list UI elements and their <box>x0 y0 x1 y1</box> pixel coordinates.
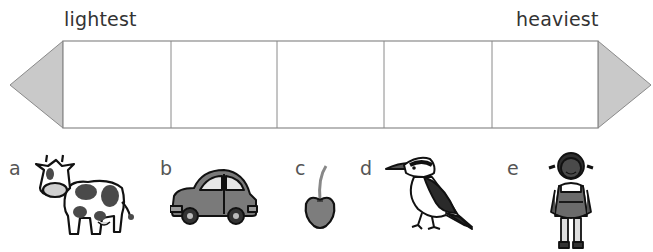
answer-box-2[interactable] <box>171 42 277 128</box>
car-icon[interactable] <box>170 166 258 228</box>
cow-icon[interactable] <box>30 152 134 242</box>
answer-box-4[interactable] <box>384 42 492 128</box>
answer-box-3[interactable] <box>277 42 384 128</box>
item-letter-d: d <box>360 157 372 179</box>
answer-box-1[interactable] <box>64 42 171 128</box>
girl-icon[interactable] <box>545 150 597 252</box>
ordering-scale <box>0 0 653 140</box>
right-arrow-head <box>598 41 651 128</box>
answer-box-5[interactable] <box>492 42 598 128</box>
cherry-icon[interactable] <box>302 164 338 232</box>
left-arrow-head <box>10 41 63 128</box>
bird-icon[interactable] <box>384 155 476 235</box>
item-letter-a: a <box>9 157 21 179</box>
item-letter-e: e <box>507 157 519 179</box>
